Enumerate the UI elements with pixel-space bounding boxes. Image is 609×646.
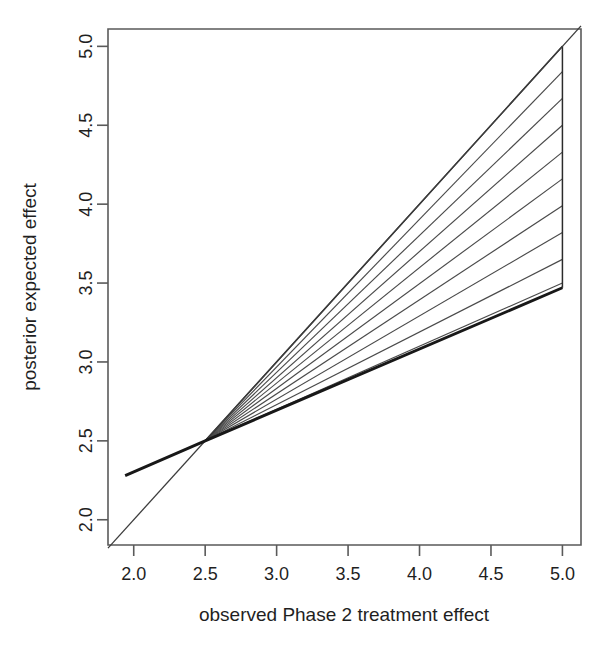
y-axis-title: posterior expected effect [19, 182, 40, 390]
x-tick-label: 4.5 [478, 564, 503, 584]
x-tick-label: 5.0 [550, 564, 575, 584]
plot-canvas: 2.02.53.03.54.04.55.0 2.02.53.03.54.04.5… [0, 0, 609, 646]
x-tick-label: 3.5 [336, 564, 361, 584]
y-tick-label: 4.5 [76, 113, 96, 138]
y-tick-label: 2.0 [76, 507, 96, 532]
x-axis-title: observed Phase 2 treatment effect [199, 604, 490, 625]
y-tick-label: 2.5 [76, 428, 96, 453]
y-tick-label: 3.0 [76, 349, 96, 374]
x-tick-label: 2.5 [193, 564, 218, 584]
y-tick-label: 5.0 [76, 34, 96, 59]
y-tick-label: 3.5 [76, 271, 96, 296]
chart-figure: 2.02.53.03.54.04.55.0 2.02.53.03.54.04.5… [0, 0, 609, 646]
x-tick-label: 2.0 [121, 564, 146, 584]
x-tick-label: 4.0 [407, 564, 432, 584]
x-tick-label: 3.0 [264, 564, 289, 584]
y-tick-label: 4.0 [76, 192, 96, 217]
